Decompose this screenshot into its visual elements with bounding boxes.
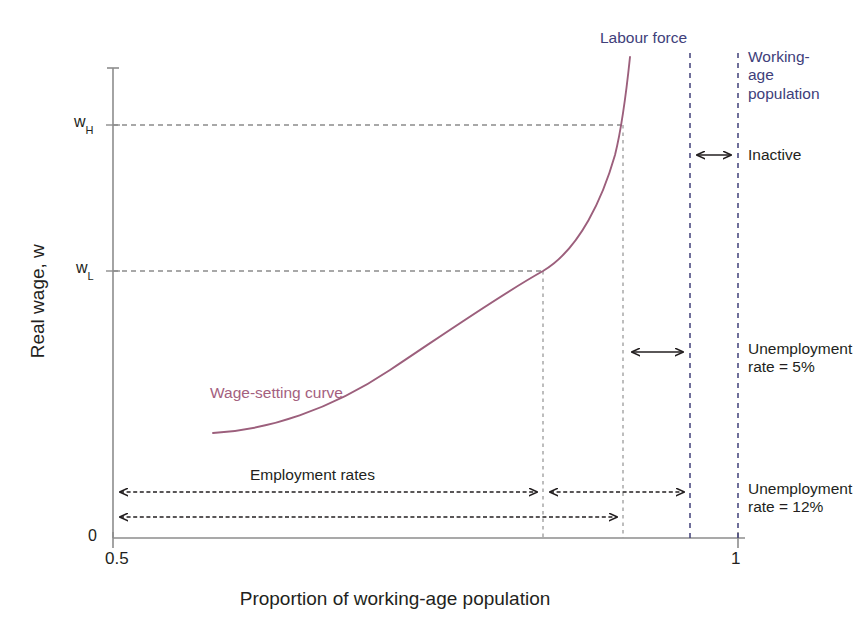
- y-tick-label-wl: wL: [76, 259, 94, 280]
- labour-force-label: Labour force: [600, 29, 687, 47]
- unemployment-rate-12-label: Unemploymentrate = 12%: [748, 480, 860, 517]
- x-axis-title: Proportion of working-age population: [0, 588, 790, 610]
- axis-lines: [106, 68, 745, 548]
- unemployment-rate-5-line-1: Unemployment: [748, 340, 852, 357]
- working-age-population-line-3: population: [748, 85, 820, 102]
- unemployment-rate-12-line-1: Unemployment: [748, 480, 852, 497]
- y-tick-wh-base: w: [74, 113, 86, 130]
- x-tick-label-left: 0.5: [105, 549, 129, 569]
- y-tick-label-zero: 0: [88, 527, 97, 546]
- vertical-intersection-lines: [543, 125, 623, 538]
- horizontal-reference-lines: [113, 125, 623, 271]
- inactive-label: Inactive: [748, 146, 801, 164]
- y-tick-label-wh: wH: [74, 113, 94, 134]
- measurement-arrows: [120, 155, 731, 517]
- y-tick-wl-base: w: [76, 259, 88, 276]
- working-age-population-line-2: age: [748, 66, 774, 83]
- wage-setting-curve-label: Wage-setting curve: [210, 384, 343, 402]
- employment-rates-label: Employment rates: [250, 466, 375, 484]
- boundary-lines: [690, 53, 738, 538]
- wage-setting-curve-figure: Proportion of working-age population Rea…: [0, 0, 863, 632]
- x-tick-label-right: 1: [731, 549, 740, 569]
- working-age-population-label: Working-agepopulation: [748, 48, 858, 103]
- unemployment-rate-5-label: Unemploymentrate = 5%: [748, 340, 860, 377]
- chart-canvas: [0, 0, 863, 632]
- working-age-population-line-1: Working-: [748, 48, 810, 65]
- unemployment-rate-12-line-2: rate = 12%: [748, 498, 823, 515]
- wage-setting-curve-path: [213, 57, 630, 433]
- y-tick-wl-subscript: L: [88, 270, 94, 282]
- y-tick-wh-subscript: H: [86, 124, 94, 136]
- y-axis-title: Real wage, w: [27, 141, 49, 461]
- unemployment-rate-5-line-2: rate = 5%: [748, 358, 815, 375]
